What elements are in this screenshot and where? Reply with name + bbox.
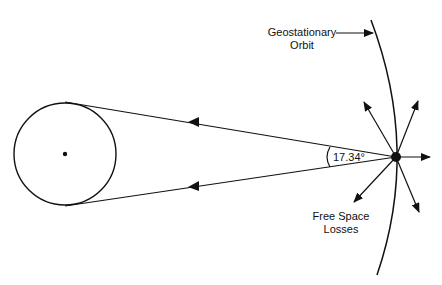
geo-orbit-label-line2: Orbit: [267, 39, 337, 52]
angle-label: 17.34°: [333, 151, 365, 164]
angle-arc: [327, 147, 330, 167]
arrow-lower-icon: [188, 181, 199, 191]
losses-label-line2: Losses: [308, 223, 374, 236]
satellite-coverage-diagram: [0, 0, 442, 285]
losses-label-line1: Free Space: [308, 210, 374, 223]
geo-orbit-label-line1: Geostationary: [267, 26, 337, 39]
geostationary-orbit-arc: [371, 20, 397, 275]
geostationary-orbit-label: Geostationary Orbit: [267, 26, 337, 52]
arrow-upper-icon: [188, 117, 199, 127]
free-space-losses-label: Free Space Losses: [308, 210, 374, 236]
earth-circle: [14, 103, 116, 205]
